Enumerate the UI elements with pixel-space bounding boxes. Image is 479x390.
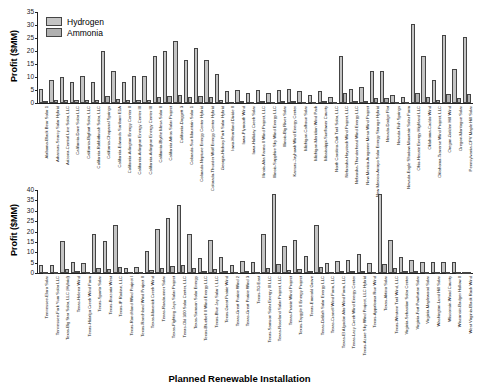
ammonia-bar [170,266,174,273]
hydrogen-bar [272,194,276,273]
ammonia-bar [403,271,407,273]
y-tick-mark [35,211,38,212]
ammonia-bar [240,101,244,103]
hydrogen-bar [163,51,167,103]
y-tick-label: 20 [20,229,34,235]
hydrogen-bar [314,225,318,273]
top-chart: Profit ($MM) 05101520253035 Alabama-Blac… [0,0,479,180]
ammonia-bar [456,272,460,274]
ammonia-bar [436,100,440,103]
bottom-chart: Profit ($MM) 0510152025303540 Tennessee-… [0,180,479,390]
ammonia-bar [64,100,68,103]
legend-label-ammonia: Ammonia [67,28,103,38]
ammonia-bar [287,270,291,273]
ammonia-bar [308,271,312,273]
ammonia-bar [281,101,285,103]
ammonia-bar [105,96,109,103]
y-tick-label: 10 [20,249,34,255]
ammonia-bar [234,272,238,274]
ammonia-bar [178,95,182,103]
hydrogen-bar [261,234,265,273]
ammonia-bar [213,269,217,273]
ammonia-bar [446,272,450,274]
ammonia-bar [167,96,171,103]
hydrogen-bar [155,229,159,273]
ammonia-bar [297,269,301,273]
ammonia-bar [128,272,132,274]
x-axis-title: Planned Renewable Installation [0,373,479,384]
y-tick-mark [35,38,38,39]
ammonia-bar [136,100,140,103]
hydrogen-bar [153,56,157,103]
ammonia-bar [43,272,47,274]
y-tick-mark [35,64,38,65]
ammonia-bar [139,272,143,274]
ammonia-bar [75,271,79,273]
ammonia-bar [192,268,196,273]
ammonia-bar [353,101,357,103]
ammonia-bar [382,264,386,273]
hydrogen-swatch [46,17,62,26]
ammonia-bar [202,271,206,273]
ammonia-bar [364,101,368,103]
y-tick-mark [35,90,38,91]
ammonia-bar [312,102,316,104]
ammonia-bar [219,100,223,103]
y-tick-label: 30 [20,208,34,214]
legend: Hydrogen Ammonia [46,16,104,38]
ammonia-bar [160,268,164,273]
ammonia-bar [291,101,295,103]
y-tick-label: 15 [20,61,34,67]
ammonia-bar [425,272,429,274]
ammonia-bar [85,100,89,103]
ammonia-bar [426,97,430,103]
hydrogen-bar [215,74,219,103]
y-tick-label: 20 [20,48,34,54]
y-axis-label-top: Profit ($MM) [9,30,19,82]
ammonia-bar [43,101,47,103]
y-tick-mark [35,252,38,253]
y-tick-label: 35 [20,9,34,15]
ammonia-bar [250,102,254,104]
ammonia-bar [147,100,151,103]
ammonia-bar [54,100,58,103]
hydrogen-bar [101,51,105,103]
y-tick-mark [35,51,38,52]
y-tick-mark [35,200,38,201]
y-tick-label: 30 [20,22,34,28]
hydrogen-bar [378,194,382,273]
ammonia-bar [395,102,399,104]
ammonia-bar [322,101,326,103]
ammonia-bar [118,267,122,273]
ammonia-bar [405,102,409,104]
y-tick-mark [35,190,38,191]
ammonia-bar [333,102,337,104]
ammonia-bar [467,272,471,274]
ammonia-bar [245,271,249,273]
ammonia-bar [343,93,347,103]
ammonia-bar [209,97,213,103]
y-tick-label: 25 [20,35,34,41]
y-tick-mark [35,221,38,222]
ammonia-bar [157,97,161,103]
ammonia-bar [415,93,419,103]
ammonia-bar [107,269,111,273]
ammonia-bar [340,271,344,273]
ammonia-bar [266,268,270,273]
y-tick-mark [35,232,38,233]
y-tick-label: 15 [20,239,34,245]
y-tick-mark [35,25,38,26]
hydrogen-bar [442,35,446,103]
legend-item-ammonia: Ammonia [46,27,104,38]
ammonia-bar [188,97,192,103]
y-tick-label: 35 [20,197,34,203]
ammonia-bar [276,264,280,273]
y-tick-label: 0 [20,270,34,276]
ammonia-bar [446,94,450,103]
ammonia-bar [435,272,439,274]
ammonia-bar [384,98,388,103]
ammonia-bar [149,270,153,273]
y-axis-label-bottom: Profit ($MM) [9,204,19,256]
ammonia-bar [65,269,69,273]
ammonia-bar [229,102,233,104]
